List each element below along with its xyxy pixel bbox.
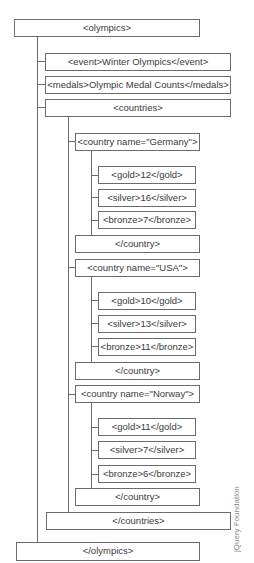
germany-gold-node: <gold>12</gold> (98, 166, 196, 184)
countries-close-node: </countries> (46, 512, 231, 530)
norway-connector (68, 394, 75, 395)
germany-bronze-node: <bronze>7</bronze> (98, 211, 196, 229)
norway-bronze-connector (91, 474, 98, 475)
germany-connector (68, 141, 75, 142)
norway-open-node: <country name="Norway"> (75, 385, 200, 403)
olympics-open-node: <olympics> (14, 19, 200, 37)
norway-bronze-node: <bronze>6</bronze> (98, 465, 196, 483)
germany-silver-node: <silver>16</silver> (98, 189, 196, 207)
usa-connector (68, 267, 75, 268)
germany-gold-connector (91, 175, 98, 176)
medals-node: <medals>Olympic Medal Counts</medals> (45, 76, 231, 94)
norway-trunk-line (91, 403, 92, 488)
norway-close-node: </country> (75, 488, 200, 506)
norway-gold-connector (91, 427, 98, 428)
germany-open-node: <country name="Germany"> (75, 133, 200, 151)
usa-trunk-line (91, 276, 92, 362)
usa-bronze-node: <bronze>11</bronze> (98, 338, 196, 356)
countries-trunk-line (68, 116, 69, 512)
norway-gold-node: <gold>11</gold> (98, 418, 196, 436)
usa-silver-connector (91, 323, 98, 324)
usa-bronze-connector (91, 346, 98, 347)
germany-trunk-line (91, 150, 92, 236)
germany-close-node: </country> (75, 235, 200, 253)
usa-gold-node: <gold>10</gold> (98, 292, 196, 310)
credit-text: jQuery Foundation (232, 486, 241, 552)
usa-gold-connector (91, 300, 98, 301)
germany-silver-connector (91, 197, 98, 198)
usa-open-node: <country name="USA"> (75, 259, 200, 277)
olympics-close-node: </olympics> (16, 542, 200, 561)
countries-connector (37, 107, 45, 108)
event-connector (37, 61, 45, 62)
medals-connector (37, 84, 45, 85)
root-trunk-line (37, 36, 38, 542)
usa-silver-node: <silver>13</silver> (98, 315, 196, 333)
norway-silver-node: <silver>7</silver> (98, 441, 196, 459)
germany-bronze-connector (91, 220, 98, 221)
countries-open-node: <countries> (45, 99, 231, 117)
usa-close-node: </country> (75, 362, 200, 380)
norway-silver-connector (91, 450, 98, 451)
event-node: <event>Winter Olympics</event> (45, 53, 231, 71)
